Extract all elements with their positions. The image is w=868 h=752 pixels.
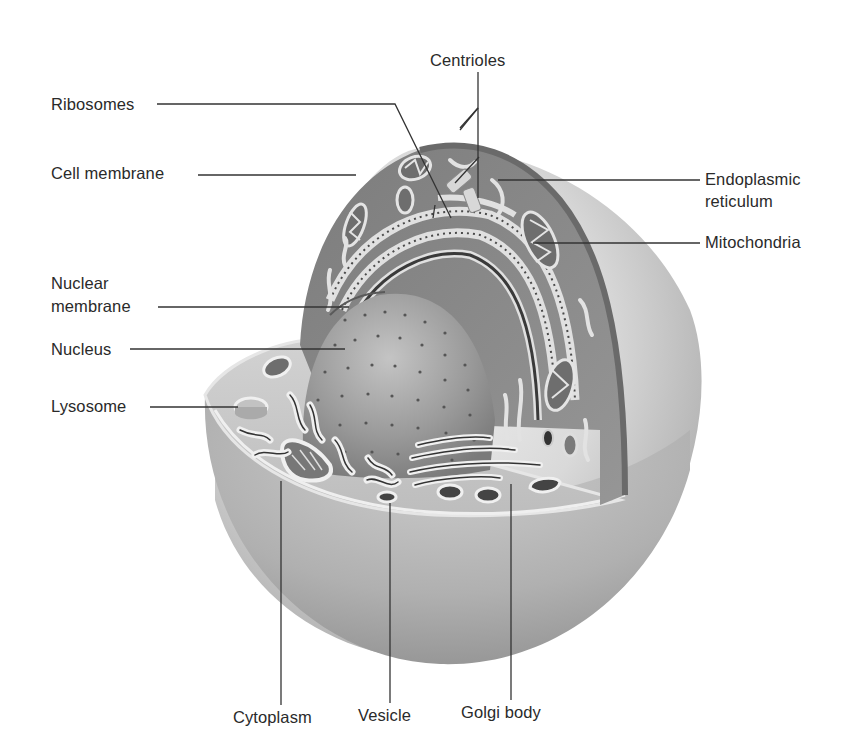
label-endoplasmic-reticulum-1: Endoplasmic	[705, 170, 801, 189]
label-cytoplasm: Cytoplasm	[233, 708, 312, 727]
label-golgi-body: Golgi body	[461, 703, 541, 722]
label-nuclear-membrane-2: membrane	[51, 297, 131, 316]
label-vesicle: Vesicle	[358, 706, 411, 725]
label-nucleus: Nucleus	[51, 340, 111, 359]
cell-diagram: Centrioles Ribosomes Cell membrane Endop…	[0, 0, 868, 752]
label-lysosome: Lysosome	[51, 397, 126, 416]
label-ribosomes: Ribosomes	[51, 95, 134, 114]
label-cell-membrane: Cell membrane	[51, 164, 164, 183]
label-centrioles: Centrioles	[430, 51, 505, 70]
label-nuclear-membrane-1: Nuclear	[51, 274, 109, 293]
label-endoplasmic-reticulum-2: reticulum	[705, 192, 773, 211]
label-mitochondria: Mitochondria	[705, 233, 801, 252]
